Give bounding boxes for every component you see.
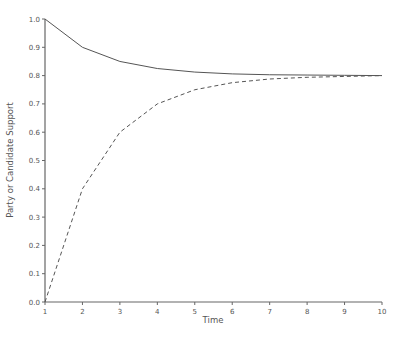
x-tick-label: 8 — [305, 308, 309, 316]
y-tick-label: 0.8 — [29, 72, 40, 80]
x-axis: 12345678910 — [43, 302, 387, 316]
x-tick-label: 9 — [342, 308, 346, 316]
x-tick-label: 2 — [80, 308, 84, 316]
y-axis: 0.00.10.20.30.40.50.60.70.80.91.0 — [29, 16, 45, 307]
dashed-series-line — [45, 76, 382, 302]
y-tick-label: 0.0 — [29, 299, 40, 307]
y-tick-label: 0.9 — [29, 44, 40, 52]
y-tick-label: 0.6 — [29, 129, 41, 137]
x-tick-label: 4 — [155, 308, 160, 316]
y-tick-label: 0.5 — [29, 157, 40, 165]
x-tick-label: 10 — [378, 308, 387, 316]
y-axis-title: Party or Candidate Support — [5, 102, 15, 218]
y-tick-label: 0.2 — [29, 242, 40, 250]
x-tick-label: 7 — [267, 308, 271, 316]
y-tick-label: 0.1 — [29, 270, 40, 278]
x-tick-label: 1 — [43, 308, 47, 316]
y-tick-label: 1.0 — [29, 16, 40, 24]
line-chart: 0.00.10.20.30.40.50.60.70.80.91.0 123456… — [0, 0, 402, 339]
x-tick-label: 5 — [193, 308, 197, 316]
y-tick-label: 0.7 — [29, 100, 40, 108]
x-axis-title: Time — [202, 315, 224, 325]
series-layer — [45, 19, 382, 302]
x-tick-label: 3 — [118, 308, 122, 316]
y-tick-label: 0.3 — [29, 214, 40, 222]
y-tick-label: 0.4 — [29, 185, 41, 193]
x-tick-label: 6 — [230, 308, 235, 316]
solid-series-line — [45, 19, 382, 76]
